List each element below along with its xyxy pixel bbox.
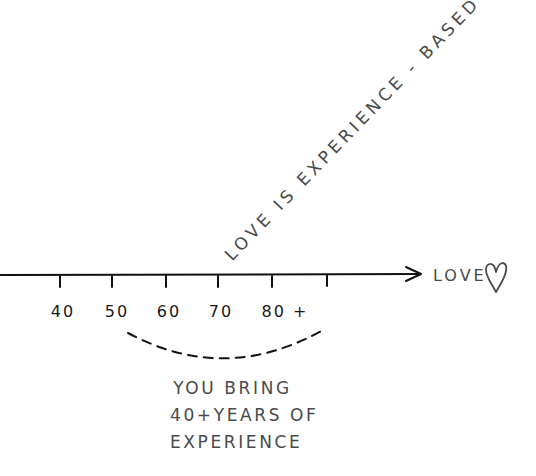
caption-line-3: EXPERIENCE <box>170 429 295 456</box>
tick-label-80-plus: 80 + <box>262 302 309 321</box>
tick-label-70: 70 <box>209 302 233 321</box>
tick-label-50: 50 <box>105 302 129 321</box>
dashed-bracket-arc <box>128 330 323 358</box>
axis-end-label: LOVE <box>433 266 487 285</box>
caption-line-2: 40+YEARS OF <box>170 402 295 429</box>
axis-ticks <box>60 275 327 287</box>
caption-line-1: YOU BRING <box>170 375 295 402</box>
tick-label-60: 60 <box>157 302 181 321</box>
caption: YOU BRING 40+YEARS OF EXPERIENCE <box>170 375 295 456</box>
heart-icon <box>486 263 506 292</box>
axis-line <box>0 274 420 275</box>
diagram-canvas: LOVE IS EXPERIENCE - BASED 40 50 60 70 8… <box>0 0 536 476</box>
tick-label-40: 40 <box>51 302 75 321</box>
